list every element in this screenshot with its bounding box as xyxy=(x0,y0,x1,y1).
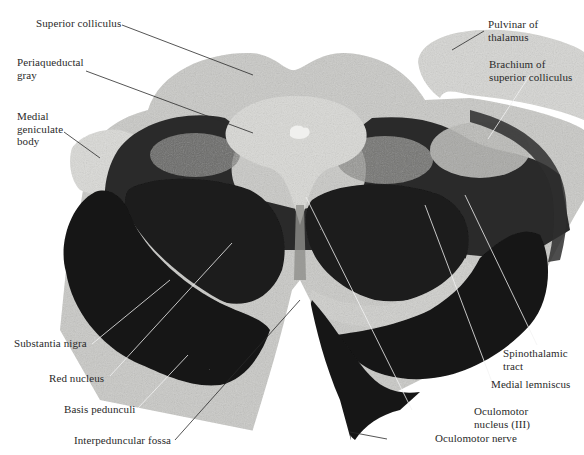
midline-raphe xyxy=(294,205,306,280)
label-oculomotor-nerve: Oculomotor nerve xyxy=(435,432,517,445)
label-oculomotor-nucleus: Oculomotor nucleus (III) xyxy=(474,405,530,430)
label-periaqueductal-gray: Periaqueductal gray xyxy=(17,56,84,81)
label-superior-colliculus: Superior colliculus xyxy=(36,17,121,30)
label-spinothalamic-tract: Spinothalamic tract xyxy=(503,347,568,372)
label-brachium-of-superior-colliculus: Brachium of superior colliculus xyxy=(489,58,572,83)
label-basis-pedunculi: Basis pedunculi xyxy=(64,403,135,416)
label-interpeduncular-fossa: Interpeduncular fossa xyxy=(74,434,171,447)
label-medial-geniculate-body: Medial geniculate body xyxy=(17,110,63,148)
label-substantia-nigra: Substantia nigra xyxy=(14,337,87,350)
label-pulvinar-of-thalamus: Pulvinar of thalamus xyxy=(488,18,538,43)
label-red-nucleus: Red nucleus xyxy=(49,372,104,385)
label-medial-lemniscus: Medial lemniscus xyxy=(491,378,571,391)
